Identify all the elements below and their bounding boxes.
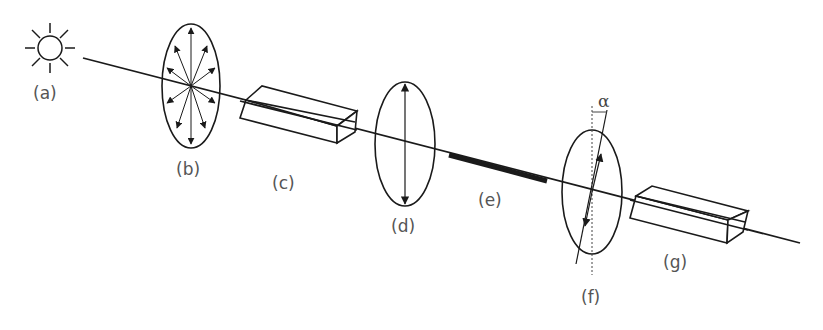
label-f: (f) [581, 287, 600, 307]
sample-tube-bar-icon [449, 155, 547, 181]
label-b: (b) [176, 159, 200, 179]
rotated-polarized-light-ellipse-icon [562, 106, 622, 275]
unpolarized-light-ellipse-icon [162, 24, 220, 148]
plane-polarized-light-ellipse-icon [375, 82, 435, 206]
rotation-angle-alpha: α [598, 91, 610, 111]
label-e: (e) [478, 190, 502, 210]
polarimeter-diagram: (a) (b) (c) (d) (e) [0, 0, 823, 330]
label-a: (a) [33, 83, 57, 103]
label-g: (g) [663, 252, 687, 272]
label-c: (c) [272, 173, 295, 193]
label-d: (d) [391, 216, 415, 236]
polarizer-prism-icon [240, 86, 357, 143]
light-source-sun-icon [25, 23, 75, 73]
